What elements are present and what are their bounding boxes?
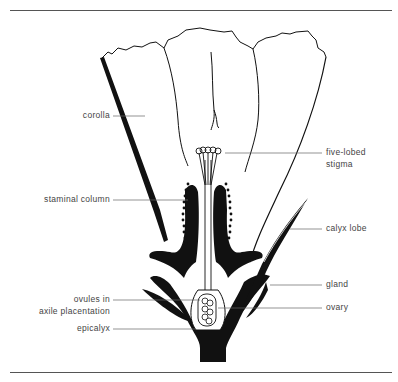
stem [200, 348, 226, 362]
corolla-left-edge [102, 42, 164, 58]
corolla-left-wall [100, 57, 168, 242]
label-stigma-line1: five-lobed [326, 147, 366, 158]
label-ovules-line2: axile placentation [39, 306, 110, 317]
staminal-column-left [149, 185, 199, 278]
label-ovules-line1: ovules in [74, 294, 110, 305]
label-ovary: ovary [326, 302, 348, 313]
ovules [202, 298, 213, 324]
label-calyx-lobe: calyx lobe [326, 223, 367, 234]
label-staminal-column: staminal column [44, 194, 110, 205]
label-corolla: corolla [83, 110, 110, 121]
label-stigma-line2: stigma [326, 159, 353, 170]
label-epicalyx: epicalyx [77, 323, 110, 334]
flower-section-drawing [0, 0, 398, 382]
staminal-column-right [213, 185, 263, 278]
label-gland: gland [326, 279, 348, 290]
